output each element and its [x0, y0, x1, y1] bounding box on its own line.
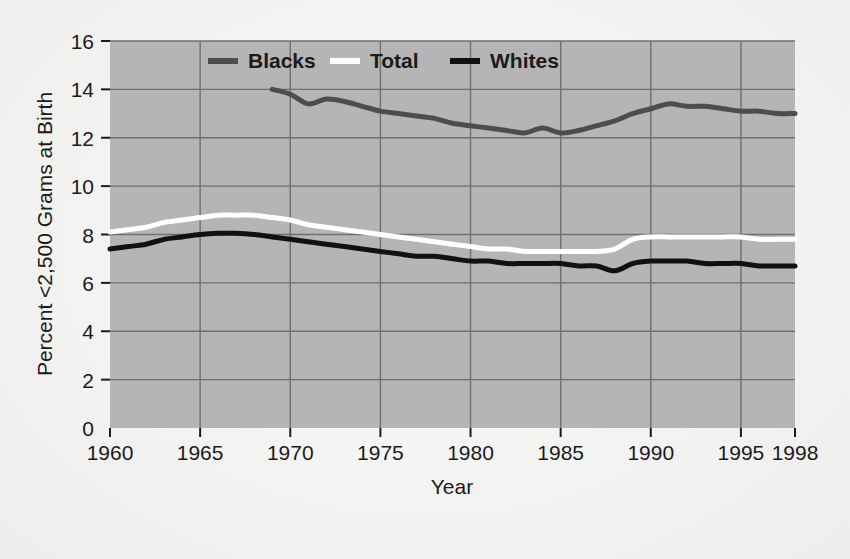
legend-label-total: Total — [370, 49, 419, 72]
y-tick-label: 14 — [71, 78, 95, 101]
chart-legend: BlacksTotalWhites — [208, 49, 559, 72]
figure-container: 0246810121416 19601965197019751980198519… — [0, 0, 850, 559]
x-tick-label: 1998 — [772, 441, 819, 464]
x-tick-label: 1985 — [537, 441, 584, 464]
y-tick-label: 8 — [82, 224, 94, 247]
legend-label-whites: Whites — [490, 49, 559, 72]
y-tick-label: 10 — [71, 175, 94, 198]
x-tick-label: 1960 — [87, 441, 134, 464]
y-tick-label: 4 — [82, 320, 94, 343]
y-tick-marks — [101, 41, 110, 380]
line-chart: 0246810121416 19601965197019751980198519… — [0, 0, 850, 559]
x-tick-label: 1965 — [177, 441, 224, 464]
y-tick-label: 12 — [71, 127, 94, 150]
chart-page: 0246810121416 19601965197019751980198519… — [0, 0, 850, 559]
legend-label-blacks: Blacks — [248, 49, 316, 72]
x-tick-label: 1995 — [718, 441, 765, 464]
y-tick-label: 0 — [82, 417, 94, 440]
x-tick-label: 1975 — [357, 441, 404, 464]
x-tick-labels: 196019651970197519801985199019951998 — [87, 441, 819, 464]
x-tick-label: 1970 — [267, 441, 314, 464]
y-tick-label: 6 — [82, 272, 94, 295]
y-tick-labels: 0246810121416 — [71, 30, 95, 440]
x-tick-marks — [110, 428, 795, 437]
y-tick-label: 16 — [71, 30, 94, 53]
x-axis-title: Year — [431, 475, 473, 498]
x-tick-label: 1980 — [447, 441, 494, 464]
x-tick-label: 1990 — [627, 441, 674, 464]
y-axis-title: Percent <2,500 Grams at Birth — [33, 92, 56, 376]
y-tick-label: 2 — [82, 369, 94, 392]
